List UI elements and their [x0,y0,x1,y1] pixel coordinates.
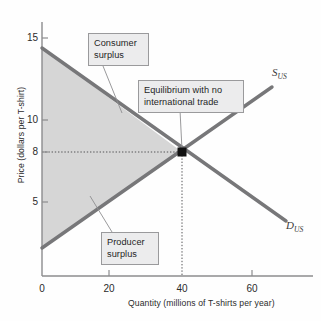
supply-demand-figure: 15 10 8 5 0 20 40 60 Price (dollars per … [0,0,321,321]
callout-producer-surplus[interactable]: Producer surplus [101,232,159,265]
page-caption-strip [0,312,321,321]
equilibrium-marker[interactable] [178,148,187,157]
callout-equilibrium[interactable]: Equilibrium with no international trade [138,80,244,113]
callout-consumer-surplus[interactable]: Consumer surplus [88,33,149,66]
plot-area [0,0,321,321]
